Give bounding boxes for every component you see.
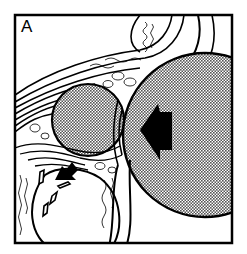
small-sphere [52,84,124,156]
large-sphere [123,53,247,217]
figure-canvas [0,0,247,254]
panel-label: A [21,18,32,35]
anatomical-figure: A [0,0,247,254]
